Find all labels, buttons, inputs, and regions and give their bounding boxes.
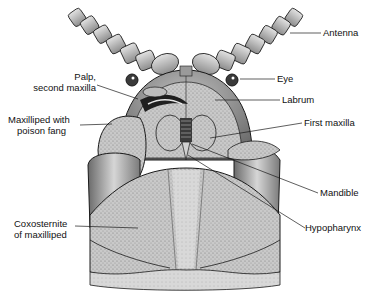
eye-left — [126, 74, 138, 86]
antenna-right — [189, 7, 303, 78]
label-coxosternite: Coxosternite of maxilliped — [14, 218, 67, 240]
label-maxilliped-line1: Maxilliped with — [8, 114, 70, 125]
label-maxilliped-poison-fang: Maxilliped with poison fang — [8, 114, 70, 136]
label-hypopharynx: Hypopharynx — [305, 222, 361, 233]
label-palp-second-maxilla: Palp, second maxilla — [14, 71, 96, 93]
antenna-left — [67, 7, 181, 78]
label-coxosternite-line2: of maxilliped — [14, 229, 67, 240]
label-labrum: Labrum — [282, 94, 314, 105]
label-coxosternite-line1: Coxosternite — [14, 218, 67, 229]
label-antenna: Antenna — [323, 27, 358, 38]
label-palp-line2: second maxilla — [14, 82, 96, 93]
label-first-maxilla: First maxilla — [304, 117, 355, 128]
label-mandible: Mandible — [320, 187, 359, 198]
diagram-illustration — [0, 0, 371, 293]
label-palp-line1: Palp, — [14, 71, 96, 82]
label-maxilliped-line2: poison fang — [8, 125, 70, 136]
centipede-head-diagram: Antenna Eye Labrum First maxilla Mandibl… — [0, 0, 371, 293]
eye-right — [226, 74, 238, 86]
label-eye: Eye — [277, 73, 293, 84]
